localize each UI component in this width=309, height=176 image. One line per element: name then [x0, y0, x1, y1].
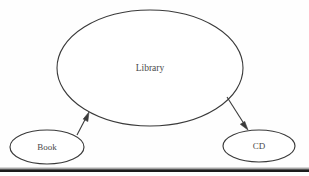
edge-book-to-library-arrowhead: [83, 112, 89, 122]
diagram-svg: Library Book CD: [0, 0, 309, 176]
node-library-label: Library: [136, 63, 165, 73]
node-book-label: Book: [37, 142, 57, 152]
edge-book-to-library-line: [77, 118, 86, 135]
diagram-canvas: Library Book CD: [0, 0, 309, 176]
edge-library-to-cd-line: [227, 97, 245, 125]
edge-library-to-cd-arrowhead: [240, 121, 248, 130]
node-cd-label: CD: [253, 141, 266, 151]
